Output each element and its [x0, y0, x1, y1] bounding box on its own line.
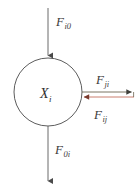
label-fij-base: F: [94, 107, 102, 122]
label-fi0-base: F: [56, 14, 64, 29]
label-f0i-base: F: [55, 142, 63, 157]
label-fji-subscript: ji: [104, 79, 109, 89]
label-fji-base: F: [96, 72, 104, 87]
label-f0i-subscript: 0i: [63, 149, 70, 159]
compartment-flow-diagram: Fi0 F0i Fji Fij Xi: [0, 0, 139, 191]
label-xi-base: X: [40, 86, 49, 101]
label-outflow-f0i: F0i: [55, 141, 70, 157]
label-inflow-fi0: Fi0: [56, 13, 71, 29]
label-fi0-subscript: i0: [64, 21, 71, 31]
label-compartment-xi: Xi: [40, 85, 51, 101]
label-fij-subscript: ij: [102, 114, 107, 124]
label-flow-fji: Fji: [96, 71, 109, 87]
label-flow-fij: Fij: [94, 106, 107, 122]
label-xi-subscript: i: [49, 94, 52, 104]
